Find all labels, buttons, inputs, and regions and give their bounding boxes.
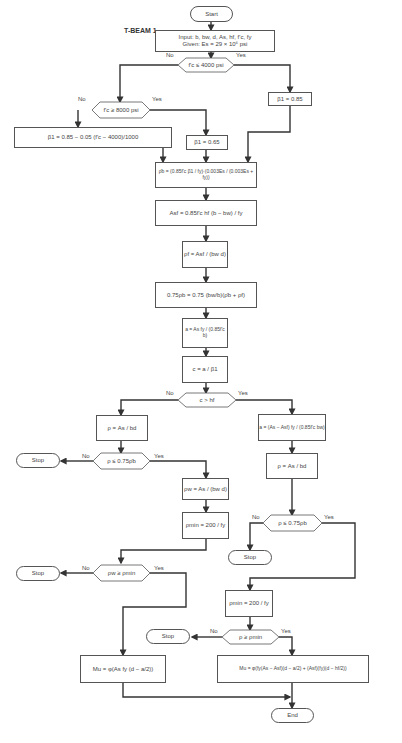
mu-right-box: Mu = φ(fy(As − Asf)(d − a/2) + (Asf)(fy)… <box>217 655 369 683</box>
rho-b-box: ρ̄b = (0.85f'c β1 / fy)·(0.003Es / (0.00… <box>155 162 257 188</box>
rho-f-box: ρf = Asf / (bw d) <box>182 241 228 268</box>
label-yes-chf: Yes <box>238 390 248 396</box>
decision-rho-075-left: ρ ≤ 0.75ρ̄b <box>93 453 150 469</box>
rho-075-box: 0.75ρb = 0.75 (bw/b)(ρ̄b + ρf) <box>155 282 257 308</box>
c-box: c = a / β1 <box>182 356 228 383</box>
decision-rho-min: ρ ≥ ρmin <box>222 630 279 644</box>
label-yes-rhomin: Yes <box>281 628 291 634</box>
beta1-085-box: β1 = 0.85 <box>268 92 312 106</box>
decision-fc-8000: f'c ≥ 8000 psi <box>92 102 150 118</box>
beta1-065-box: β1 = 0.65 <box>186 135 228 150</box>
label-no-rhow: No <box>82 565 90 571</box>
rho-min-right-box: ρmin = 200 / fy <box>225 590 273 617</box>
mu-left-box: Mu = φ(As fy (d − a/2)) <box>80 655 166 683</box>
label-yes-rho075-left: Yes <box>154 453 164 459</box>
stop-terminal-2: Stop <box>16 566 60 581</box>
asf-box: Asf = 0.85f'c hf (b − bw) / fy <box>155 200 257 226</box>
rho-w-box: ρw = As / (bw d) <box>182 478 229 500</box>
stop-terminal-1: Stop <box>16 453 60 468</box>
label-no-fc8000: No <box>78 96 86 102</box>
label-no-rhomin: No <box>210 628 218 634</box>
input-line-1: Input: b, bw, d, As, hf, f'c, fy <box>179 34 252 41</box>
beta1-formula-box: β1 = 0.85 − 0.05 (f'c − 4000)/1000 <box>14 127 172 148</box>
a-right-box: a = (As − Asf) fy / (0.85f'c bw) <box>258 414 326 441</box>
rho-right-box: ρ = As / bd <box>266 453 318 479</box>
label-no-fc4000: No <box>166 52 174 58</box>
label-yes-rho075-right: Yes <box>324 514 334 520</box>
label-no-rho075-left: No <box>82 453 90 459</box>
stop-terminal-3: Stop <box>228 550 272 565</box>
decision-rho-075-right: ρ ≤ 0.75ρb <box>263 515 322 531</box>
label-yes-rhow: Yes <box>154 565 164 571</box>
a-box: a = As fy / (0.85f'c b) <box>182 318 228 348</box>
rho-min-left-box: ρmin = 200 / fy <box>182 512 229 539</box>
label-no-chf: No <box>166 390 174 396</box>
decision-fc-4000: f'c ≤ 4000 psi <box>178 58 234 72</box>
decision-rhow-min: ρw ≥ ρmin <box>93 565 150 581</box>
stop-terminal-4: Stop <box>146 629 190 644</box>
rho-left-box: ρ = As / bd <box>96 415 148 441</box>
label-yes-fc4000: Yes <box>236 52 246 58</box>
decision-c-gt-hf: c > hf <box>178 393 236 407</box>
label-yes-fc8000: Yes <box>152 96 162 102</box>
input-box: Input: b, bw, d, As, hf, f'c, fy Given: … <box>155 30 275 52</box>
input-line-2: Given: Es = 29 × 10⁶ psi <box>183 41 248 48</box>
end-terminal: End <box>271 708 314 723</box>
start-terminal: Start <box>190 6 233 22</box>
label-no-rho075-right: No <box>252 514 260 520</box>
